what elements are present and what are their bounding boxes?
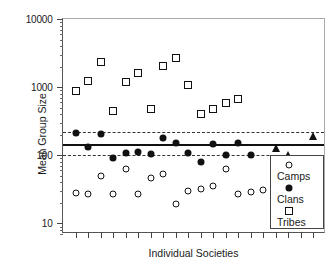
data-point-camps bbox=[247, 188, 254, 195]
x-axis-tick bbox=[251, 232, 252, 238]
legend-label-tribes: Tribes bbox=[277, 216, 323, 228]
data-point-clans bbox=[247, 151, 254, 158]
data-point-clans bbox=[197, 158, 204, 165]
chart-figure: Mean Group Size 10000100010010 Individua… bbox=[0, 0, 335, 268]
x-axis-tick bbox=[238, 232, 239, 238]
data-point-tribes bbox=[209, 105, 217, 113]
y-axis-tick-label: 10 bbox=[42, 218, 53, 229]
data-point-clans bbox=[110, 155, 117, 162]
data-point-clans bbox=[122, 150, 129, 157]
x-axis-tick bbox=[113, 232, 114, 238]
x-axis-title: Individual Societies bbox=[62, 247, 325, 259]
legend-symbol-row bbox=[277, 182, 323, 193]
data-point-camps bbox=[222, 165, 229, 172]
data-point-tribes bbox=[122, 78, 130, 86]
data-point-camps bbox=[160, 170, 167, 177]
x-axis-tick bbox=[176, 232, 177, 238]
data-point-tribes bbox=[159, 62, 167, 70]
data-point-camps bbox=[185, 187, 192, 194]
legend-open-circle-icon bbox=[286, 161, 293, 168]
x-axis-tick bbox=[276, 232, 277, 238]
x-axis-tick bbox=[88, 232, 89, 238]
data-point-camps bbox=[147, 175, 154, 182]
data-point-camps bbox=[235, 191, 242, 198]
data-point-tribes bbox=[309, 132, 317, 140]
data-point-clans bbox=[172, 140, 179, 147]
data-point-camps bbox=[110, 191, 117, 198]
y-axis-minor-tick bbox=[60, 234, 64, 235]
chart-legend: CampsClansTribes bbox=[270, 155, 324, 229]
x-axis-tick bbox=[201, 232, 202, 238]
x-axis-tick bbox=[151, 232, 152, 238]
data-point-clans bbox=[135, 148, 142, 155]
data-point-tribes bbox=[84, 77, 92, 85]
data-point-tribes bbox=[197, 110, 205, 118]
data-point-tribes bbox=[72, 87, 80, 95]
data-point-tribes bbox=[172, 54, 180, 62]
legend-label-clans: Clans bbox=[277, 193, 323, 205]
data-point-tribes bbox=[272, 144, 280, 152]
x-axis-tick bbox=[313, 232, 314, 238]
data-point-tribes bbox=[234, 95, 242, 103]
data-point-tribes bbox=[184, 81, 192, 89]
data-point-camps bbox=[172, 201, 179, 208]
data-point-clans bbox=[97, 131, 104, 138]
data-point-clans bbox=[160, 134, 167, 141]
x-axis-tick bbox=[263, 232, 264, 238]
data-point-clans bbox=[222, 152, 229, 159]
data-point-camps bbox=[85, 191, 92, 198]
legend-label-camps: Camps bbox=[277, 170, 323, 182]
x-axis-tick bbox=[138, 232, 139, 238]
data-point-camps bbox=[97, 172, 104, 179]
x-axis-tick bbox=[188, 232, 189, 238]
data-point-tribes bbox=[147, 105, 155, 113]
data-point-camps bbox=[72, 189, 79, 196]
y-axis-tick-label: 10000 bbox=[26, 14, 53, 25]
legend-symbol-row bbox=[277, 159, 323, 170]
x-axis-tick bbox=[76, 232, 77, 238]
x-axis-tick bbox=[213, 232, 214, 238]
x-axis-tick bbox=[126, 232, 127, 238]
data-point-tribes bbox=[97, 58, 105, 66]
x-axis-tick bbox=[101, 232, 102, 238]
data-point-camps bbox=[135, 191, 142, 198]
y-axis-title: Mean Group Size bbox=[36, 93, 48, 175]
data-point-clans bbox=[210, 140, 217, 147]
data-point-tribes bbox=[134, 69, 142, 77]
legend-filled-circle-icon bbox=[286, 184, 293, 191]
legend-symbol-row bbox=[277, 205, 323, 216]
data-point-camps bbox=[122, 166, 129, 173]
data-point-tribes bbox=[109, 107, 117, 115]
data-point-clans bbox=[235, 139, 242, 146]
data-point-camps bbox=[260, 186, 267, 193]
x-axis-tick bbox=[226, 232, 227, 238]
data-point-clans bbox=[185, 150, 192, 157]
data-point-camps bbox=[210, 183, 217, 190]
data-point-clans bbox=[85, 143, 92, 150]
y-axis-tick-label: 1000 bbox=[31, 82, 52, 93]
x-axis-tick bbox=[288, 232, 289, 238]
legend-open-square-icon bbox=[285, 207, 293, 215]
data-point-clans bbox=[147, 150, 154, 157]
data-point-tribes bbox=[222, 99, 230, 107]
x-axis-tick bbox=[163, 232, 164, 238]
y-axis-tick-label: 100 bbox=[36, 150, 52, 161]
x-axis-tick bbox=[301, 232, 302, 238]
data-point-clans bbox=[72, 129, 79, 136]
data-point-camps bbox=[197, 186, 204, 193]
